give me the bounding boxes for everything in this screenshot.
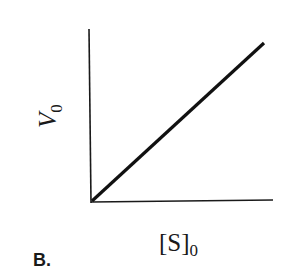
chart: V0 [S]0 B. [0, 0, 289, 273]
y-axis-label-sub: 0 [47, 104, 66, 113]
svg-text:V0: V0 [34, 104, 66, 128]
y-axis-label: V0 [34, 104, 66, 128]
data-line [92, 43, 264, 201]
x-axis-label-main: [S] [159, 229, 190, 256]
x-axis [91, 200, 273, 202]
x-axis-label-sub: 0 [190, 241, 199, 260]
x-axis-label: [S]0 [159, 229, 198, 260]
y-axis [89, 29, 91, 203]
panel-label: B. [33, 250, 51, 270]
